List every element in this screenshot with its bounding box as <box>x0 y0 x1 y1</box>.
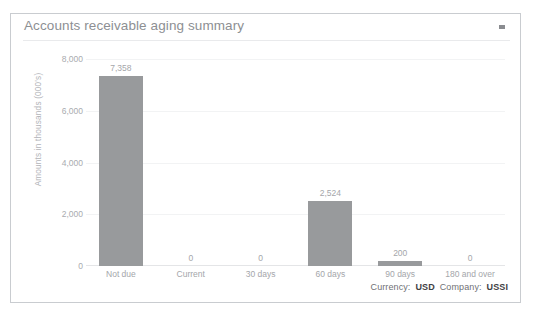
y-tick-label: 0 <box>43 261 83 271</box>
x-tick-label: 90 days <box>365 269 435 279</box>
x-tick-label: 180 and over <box>435 269 505 279</box>
y-tick-label: 8,000 <box>43 54 83 64</box>
x-tick-label: Not due <box>86 269 156 279</box>
y-axis: 8,000 6,000 4,000 2,000 0 <box>39 41 83 281</box>
bar-slot[interactable]: 0 <box>226 59 296 266</box>
x-axis: Not due Current 30 days 60 days 90 days … <box>86 269 505 279</box>
bar-slot[interactable]: 200 <box>365 59 435 266</box>
plot-area: 7,358 0 0 2,524 200 <box>86 59 505 266</box>
chevron-down-icon[interactable] <box>494 20 510 34</box>
table-row[interactable] <box>308 201 352 266</box>
page-title: Accounts receivable aging summary <box>24 18 244 33</box>
bar-series: 7,358 0 0 2,524 200 <box>86 59 505 266</box>
y-tick-label: 4,000 <box>43 158 83 168</box>
bar-value-label: 200 <box>365 248 435 258</box>
company-label: Company: <box>440 282 482 292</box>
table-row[interactable] <box>378 261 422 266</box>
company-value: USSI <box>487 282 508 292</box>
bar-slot[interactable]: 0 <box>156 59 226 266</box>
bar-value-label: 0 <box>156 253 226 263</box>
y-tick-label: 6,000 <box>43 106 83 116</box>
chevron-down-glyph <box>499 25 505 29</box>
x-tick-label: 30 days <box>226 269 296 279</box>
x-tick-label: Current <box>156 269 226 279</box>
table-row[interactable] <box>99 76 143 266</box>
card-footer: Currency:USDCompany:USSI <box>11 282 520 298</box>
x-tick-label: 60 days <box>295 269 365 279</box>
bar-value-label: 2,524 <box>295 188 365 198</box>
bar-slot[interactable]: 7,358 <box>86 59 156 266</box>
y-tick-label: 2,000 <box>43 209 83 219</box>
bar-slot[interactable]: 0 <box>435 59 505 266</box>
currency-label: Currency: <box>371 282 411 292</box>
bar-value-label: 7,358 <box>86 63 156 73</box>
bar-value-label: 0 <box>226 253 296 263</box>
bar-slot[interactable]: 2,524 <box>295 59 365 266</box>
bar-chart: Amounts in thousands (000's) 8,000 6,000… <box>11 41 520 281</box>
chart-card: Accounts receivable aging summary Amount… <box>10 13 521 303</box>
card-header: Accounts receivable aging summary <box>11 14 520 41</box>
currency-value: USD <box>415 282 434 292</box>
bar-value-label: 0 <box>435 253 505 263</box>
